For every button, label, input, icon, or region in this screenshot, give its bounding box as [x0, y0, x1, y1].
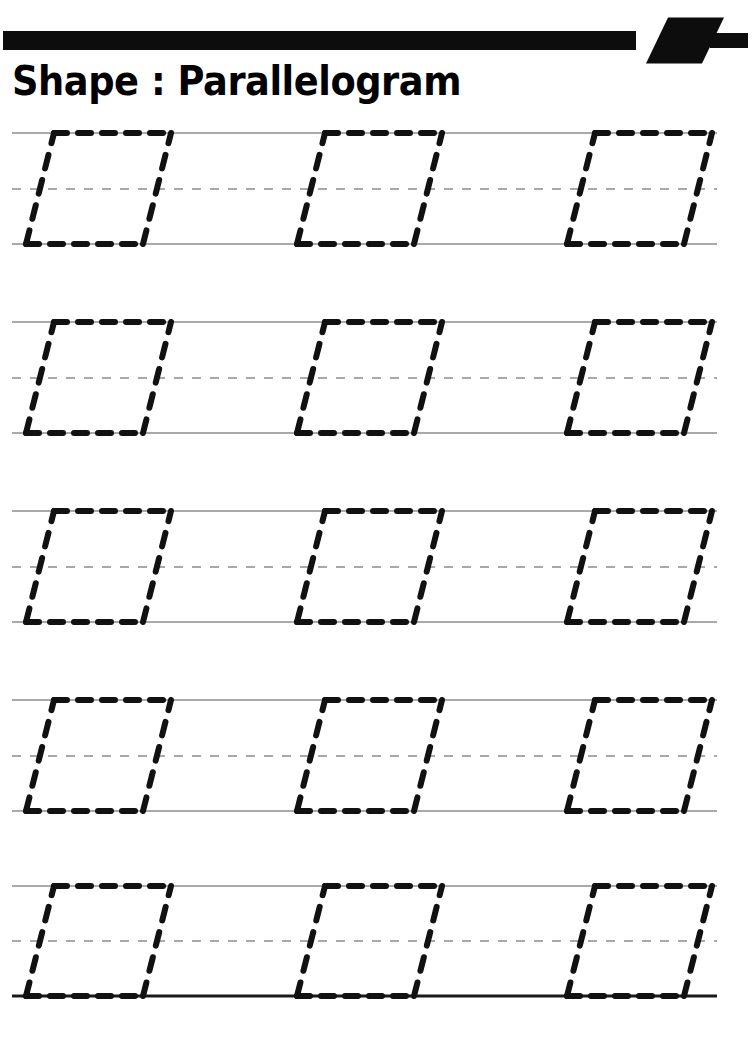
parallelogram-edge-right — [143, 322, 171, 433]
parallelogram-edge-right — [414, 133, 442, 244]
parallelogram-edge-right — [143, 511, 171, 622]
tracing-row[interactable] — [0, 119, 752, 258]
tracing-row-canvas — [0, 308, 752, 447]
parallelogram-edge-right — [684, 886, 712, 996]
parallelogram-edge-right — [143, 700, 171, 811]
parallelogram-trace-outline[interactable] — [26, 700, 171, 811]
parallelogram-edge-right — [414, 700, 442, 811]
parallelogram-edge-right — [684, 700, 712, 811]
tracing-row-canvas — [0, 497, 752, 636]
parallelogram-trace-outline[interactable] — [26, 322, 171, 433]
parallelogram-trace-outline[interactable] — [26, 133, 171, 244]
parallelogram-edge-right — [414, 322, 442, 433]
parallelogram-edge-right — [684, 322, 712, 433]
parallelogram-edge-right — [414, 886, 442, 996]
tracing-row-canvas — [0, 872, 752, 1010]
worksheet-page: Shape : Parallelogram — [0, 0, 752, 1039]
parallelogram-trace-outline[interactable] — [26, 511, 171, 622]
tracing-practice-area — [0, 0, 752, 1039]
tracing-row[interactable] — [0, 872, 752, 1010]
parallelogram-edge-right — [414, 511, 442, 622]
parallelogram-trace-outline[interactable] — [26, 886, 171, 996]
parallelogram-edge-right — [143, 133, 171, 244]
parallelogram-edge-right — [143, 886, 171, 996]
parallelogram-edge-right — [684, 511, 712, 622]
tracing-row[interactable] — [0, 308, 752, 447]
tracing-row-canvas — [0, 686, 752, 825]
tracing-row-canvas — [0, 119, 752, 258]
tracing-row[interactable] — [0, 686, 752, 825]
tracing-row[interactable] — [0, 497, 752, 636]
parallelogram-edge-right — [684, 133, 712, 244]
